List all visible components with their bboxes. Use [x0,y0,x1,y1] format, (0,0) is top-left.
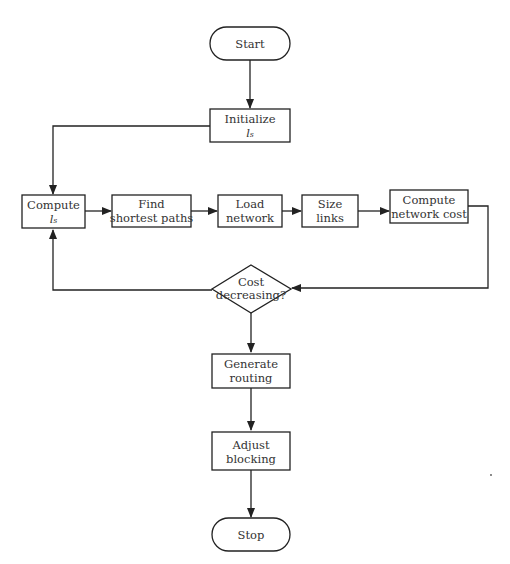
node-initialize: Initialize lₛ [210,109,290,142]
node-compute-ls-line1: Compute [27,198,80,212]
scan-dot [490,474,492,476]
node-adjust-blocking-line2: blocking [226,452,276,466]
node-initialize-line2: lₛ [246,126,254,140]
node-find-paths-line2: shortest paths [110,211,194,225]
node-cost-decreasing-line2: decreasing? [216,288,286,302]
node-generate-routing-line2: routing [230,371,274,385]
node-start: Start [210,27,290,60]
node-find-paths: Find shortest paths [110,195,194,227]
node-compute-ls-line2: lₛ [50,212,58,226]
node-adjust-blocking: Adjust blocking [212,432,290,470]
node-load-network-line1: Load [236,197,265,211]
node-load-network-line2: network [226,211,275,225]
flowchart: Start Initialize lₛ Compute lₛ Find shor… [0,0,510,564]
node-generate-routing-line1: Generate [224,357,278,371]
node-size-links: Size links [302,195,358,227]
node-compute-cost: Compute network cost [390,190,468,223]
node-compute-cost-line1: Compute [403,193,456,207]
node-cost-decreasing-line1: Cost [238,275,265,289]
node-stop: Stop [212,518,290,551]
node-size-links-line1: Size [318,197,343,211]
edge-initialize-compute [53,126,210,194]
node-start-label: Start [235,37,265,51]
node-find-paths-line1: Find [138,197,165,211]
node-initialize-line1: Initialize [224,112,275,126]
node-compute-cost-line2: network cost [391,207,467,221]
node-size-links-line2: links [316,211,344,225]
node-stop-label: Stop [238,528,265,542]
node-adjust-blocking-line1: Adjust [231,438,270,452]
node-cost-decreasing: Cost decreasing? [212,265,291,313]
edge-decision-compute [53,230,212,290]
node-compute-ls: Compute lₛ [22,195,85,228]
node-generate-routing: Generate routing [212,354,290,388]
node-load-network: Load network [218,195,282,227]
